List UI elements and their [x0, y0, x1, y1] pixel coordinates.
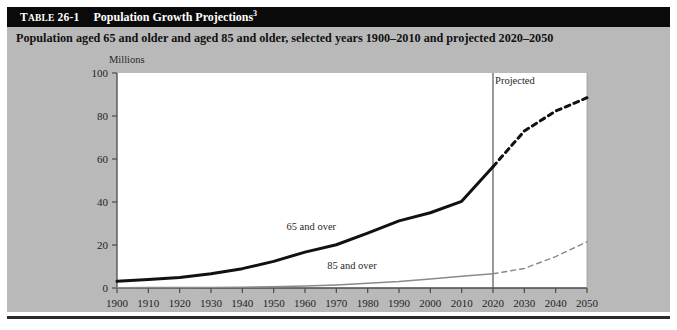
y-axis-tick-label: 20 — [97, 239, 109, 251]
y-axis-tick-label: 0 — [103, 282, 109, 294]
x-axis-tick-label: 1920 — [169, 297, 192, 309]
table-label-number: 26-1 — [55, 11, 80, 23]
table-figure-page: TABLE 26-1 Population Growth Projections… — [0, 0, 677, 330]
y-axis-tick-label: 40 — [97, 196, 109, 208]
page-margin-left — [0, 0, 7, 330]
plot-background — [117, 73, 587, 288]
x-axis-tick-label: 1900 — [106, 297, 129, 309]
chart-annotation: Projected — [495, 75, 535, 86]
x-axis-tick-label: 1940 — [231, 297, 254, 309]
x-axis-tick-label: 2050 — [576, 297, 599, 309]
table-title: Population Growth Projections3 — [94, 9, 258, 25]
x-axis-tick-label: 1980 — [357, 297, 380, 309]
y-axis-tick-label: 60 — [97, 153, 109, 165]
table-number-label: TABLE 26-1 — [20, 11, 80, 23]
x-axis-tick-label: 1910 — [137, 297, 160, 309]
bottom-rule — [7, 316, 670, 319]
x-axis-tick-label: 1960 — [294, 297, 317, 309]
chart-container: Millions 0204060801001900191019201930194… — [7, 48, 670, 312]
table-label-smallcaps: ABLE — [28, 13, 55, 23]
table-subtitle-band: Population aged 65 and older and aged 85… — [7, 28, 670, 48]
x-axis-tick-label: 2030 — [513, 297, 536, 309]
x-axis-tick-label: 1930 — [200, 297, 223, 309]
table-label-prefix: T — [20, 11, 28, 23]
chart-annotation: 65 and over — [286, 221, 336, 232]
table-subtitle: Population aged 65 and older and aged 85… — [16, 31, 553, 46]
table-title-footnote: 3 — [253, 9, 257, 18]
x-axis-tick-label: 2000 — [419, 297, 442, 309]
page-margin-right — [670, 0, 677, 330]
x-axis-tick-label: 1950 — [263, 297, 286, 309]
y-axis-tick-label: 80 — [97, 110, 109, 122]
x-axis-tick-label: 1990 — [388, 297, 411, 309]
table-title-bar: TABLE 26-1 Population Growth Projections… — [7, 7, 670, 27]
table-title-text: Population Growth Projections — [94, 10, 254, 24]
x-axis-tick-label: 1970 — [325, 297, 348, 309]
x-axis-tick-label: 2020 — [482, 297, 505, 309]
x-axis-tick-label: 2010 — [451, 297, 474, 309]
y-axis-tick-label: 100 — [92, 67, 109, 79]
page-margin-bottom — [0, 312, 677, 330]
x-axis-tick-label: 2040 — [545, 297, 568, 309]
chart-annotation: 85 and over — [327, 260, 377, 271]
line-chart: 0204060801001900191019201930194019501960… — [7, 48, 670, 312]
page-margin-top — [0, 0, 677, 7]
